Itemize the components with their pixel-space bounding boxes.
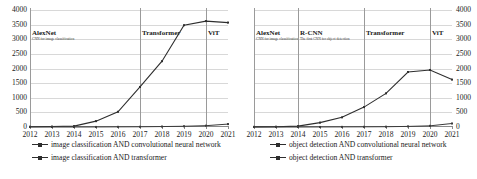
legend-left: image classification AND convolutional n… xyxy=(0,140,238,166)
x-axis-tick-label: 2017 xyxy=(133,130,148,139)
legend-label: object detection AND convolutional neura… xyxy=(289,140,447,149)
series-data-point xyxy=(51,126,53,128)
x-axis-tick-label: 2012 xyxy=(23,130,38,139)
x-axis-tick-label: 2015 xyxy=(89,130,104,139)
series-paths-right xyxy=(254,10,452,127)
series-data-point xyxy=(227,123,229,125)
plot-area-left: 05001000150020002500300035004000 2012201… xyxy=(30,10,228,127)
legend-label: image classification AND transformer xyxy=(51,153,167,162)
x-axis-tick-label: 2018 xyxy=(155,130,170,139)
series-data-point xyxy=(227,22,229,24)
y-axis-tick-label: 3500 xyxy=(456,21,471,29)
x-axis-tick-label: 2017 xyxy=(357,130,372,139)
y-axis-tick-label: 500 xyxy=(456,108,467,116)
series-data-point xyxy=(139,86,141,88)
series-data-point xyxy=(161,126,163,128)
series-line xyxy=(30,124,228,127)
series-data-point xyxy=(451,79,453,81)
legend-line-marker-icon xyxy=(270,141,286,148)
series-data-point xyxy=(385,92,387,94)
y-axis-tick-label: 2500 xyxy=(456,50,471,58)
series-data-point xyxy=(183,125,185,127)
series-data-point xyxy=(161,60,163,62)
x-axis-tick-label: 2020 xyxy=(199,130,214,139)
y-axis-tick-label: 3500 xyxy=(12,21,27,29)
x-axis-tick-label: 2019 xyxy=(401,130,416,139)
y-axis-tick-label: 2000 xyxy=(456,65,471,73)
series-data-point xyxy=(363,106,365,108)
x-axis-tick-mark xyxy=(228,126,229,129)
series-data-point xyxy=(341,116,343,118)
x-axis-tick-label: 2018 xyxy=(379,130,394,139)
series-data-point xyxy=(95,120,97,122)
series-line xyxy=(30,21,228,127)
series-data-point xyxy=(275,126,277,128)
series-paths-left xyxy=(30,10,228,127)
legend-line-marker-icon xyxy=(32,154,48,161)
series-data-point xyxy=(407,71,409,73)
series-data-point xyxy=(319,126,321,128)
series-data-point xyxy=(319,122,321,124)
x-axis-tick-label: 2013 xyxy=(269,130,284,139)
legend-item[interactable]: image classification AND transformer xyxy=(0,153,238,162)
series-data-point xyxy=(205,20,207,22)
y-axis-tick-label: 2000 xyxy=(12,65,27,73)
series-data-point xyxy=(183,24,185,26)
x-axis-tick-label: 2016 xyxy=(335,130,350,139)
x-axis-tick-label: 2016 xyxy=(111,130,126,139)
series-data-point xyxy=(385,126,387,128)
legend-label: image classification AND convolutional n… xyxy=(51,140,221,149)
plot-area-right: 05001000150020002500300035004000 2012201… xyxy=(254,10,452,127)
legend-line-marker-icon xyxy=(32,141,48,148)
series-data-point xyxy=(341,126,343,128)
y-axis-tick-label: 4000 xyxy=(12,6,27,14)
y-axis-tick-label: 500 xyxy=(16,108,27,116)
y-axis-tick-label: 1500 xyxy=(456,79,471,87)
y-axis-tick-label: 1000 xyxy=(12,94,27,102)
line-chart-object-detection: 05001000150020002500300035004000 2012201… xyxy=(238,0,477,136)
series-data-point xyxy=(117,126,119,128)
y-axis-tick-label: 2500 xyxy=(12,50,27,58)
x-axis-tick-label: 2020 xyxy=(423,130,438,139)
x-axis-tick-label: 2015 xyxy=(313,130,328,139)
x-axis-tick-label: 2012 xyxy=(247,130,262,139)
figure-container: 05001000150020002500300035004000 2012201… xyxy=(0,0,477,179)
series-data-point xyxy=(29,126,31,128)
series-data-point xyxy=(205,125,207,127)
x-axis-tick-label: 2021 xyxy=(221,130,236,139)
chart-panel-left: 05001000150020002500300035004000 2012201… xyxy=(0,0,238,179)
series-data-point xyxy=(95,126,97,128)
series-data-point xyxy=(429,125,431,127)
series-data-point xyxy=(451,122,453,124)
x-axis-tick-label: 2014 xyxy=(291,130,306,139)
y-axis-tick-label: 3000 xyxy=(12,35,27,43)
chart-panel-right: 05001000150020002500300035004000 2012201… xyxy=(238,0,477,179)
series-data-point xyxy=(117,111,119,113)
legend-line-marker-icon xyxy=(270,154,286,161)
line-chart-image-classification: 05001000150020002500300035004000 2012201… xyxy=(0,0,238,136)
series-data-point xyxy=(73,126,75,128)
legend-item[interactable]: object detection AND transformer xyxy=(238,153,477,162)
y-axis-tick-label: 1000 xyxy=(456,94,471,102)
legend-item[interactable]: image classification AND convolutional n… xyxy=(0,140,238,149)
series-data-point xyxy=(297,126,299,128)
series-data-point xyxy=(139,126,141,128)
series-data-point xyxy=(363,126,365,128)
x-axis-tick-label: 2013 xyxy=(45,130,60,139)
x-axis-tick-label: 2014 xyxy=(67,130,82,139)
legend-right: object detection AND convolutional neura… xyxy=(238,140,477,166)
x-axis-tick-label: 2021 xyxy=(445,130,460,139)
series-data-point xyxy=(407,125,409,127)
x-axis-tick-mark xyxy=(452,126,453,129)
series-data-point xyxy=(429,69,431,71)
series-data-point xyxy=(253,126,255,128)
y-axis-tick-label: 1500 xyxy=(12,79,27,87)
y-axis-tick-label: 4000 xyxy=(456,6,471,14)
legend-item[interactable]: object detection AND convolutional neura… xyxy=(238,140,477,149)
x-axis-tick-label: 2019 xyxy=(177,130,192,139)
series-line xyxy=(254,70,452,127)
legend-label: object detection AND transformer xyxy=(289,153,393,162)
